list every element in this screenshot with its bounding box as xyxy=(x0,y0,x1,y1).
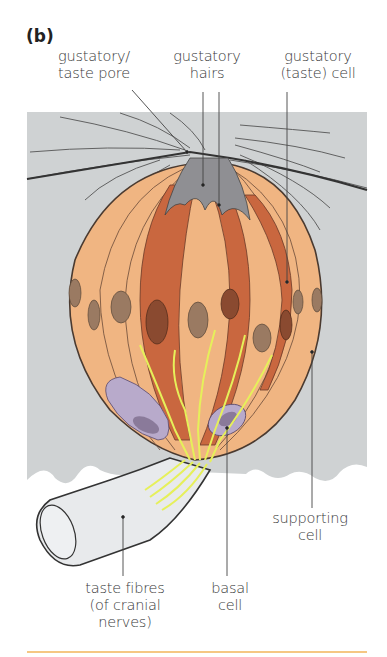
taste-bud-diagram xyxy=(0,0,387,657)
